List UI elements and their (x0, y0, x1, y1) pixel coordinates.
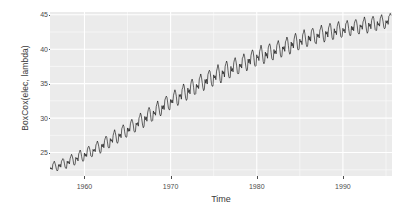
x-axis: 1960197019801990 (0, 176, 412, 194)
chart-figure: BoxCox(elec, lambda) 2530354045 19601970… (0, 0, 412, 212)
x-tick-mark (84, 176, 85, 179)
x-tick-label: 1990 (326, 183, 360, 190)
series-line-boxcox-elec (50, 13, 391, 171)
x-axis-title: Time (50, 194, 392, 204)
y-tick-label: 25 (30, 149, 48, 156)
plot-panel (50, 12, 392, 176)
x-tick-mark (257, 176, 258, 179)
x-tick-label: 1960 (67, 183, 101, 190)
y-tick-label: 35 (30, 80, 48, 87)
y-tick-label: 45 (30, 11, 48, 18)
y-tick-label: 30 (30, 115, 48, 122)
x-tick-label: 1980 (240, 183, 274, 190)
x-tick-label: 1970 (154, 183, 188, 190)
x-tick-mark (171, 176, 172, 179)
plot-canvas (50, 12, 392, 176)
y-tick-label: 40 (30, 46, 48, 53)
x-tick-mark (343, 176, 344, 179)
